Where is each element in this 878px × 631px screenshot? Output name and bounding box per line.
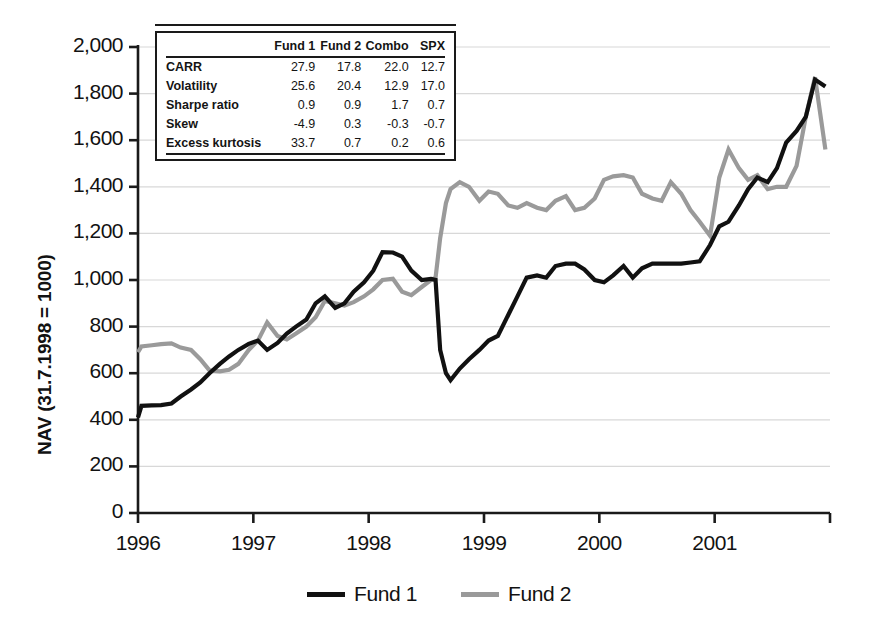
legend-swatch-icon	[307, 592, 345, 597]
table-cell-value: 0.7	[315, 134, 361, 154]
table-row-label: CARR	[166, 57, 269, 77]
table-cell-value: -0.3	[361, 115, 408, 134]
y-tick-label: 2,000	[49, 33, 123, 57]
table-cell-value: 25.6	[269, 77, 315, 96]
y-tick-label: 0	[49, 499, 123, 523]
y-tick-label: 1,800	[49, 80, 123, 104]
legend-label: Fund 2	[508, 582, 571, 606]
table-cell-value: 17.8	[315, 57, 361, 77]
table-row: Sharpe ratio0.90.91.70.7	[166, 96, 445, 115]
table-header-fund-1: Fund 1	[269, 36, 315, 57]
table-cell-value: 12.7	[409, 57, 445, 77]
legend-swatch-icon	[461, 592, 499, 597]
table-cell-value: -0.7	[409, 115, 445, 134]
table-row: CARR27.917.822.012.7	[166, 57, 445, 77]
table-cell-value: 17.0	[409, 77, 445, 96]
chart-legend: Fund 1Fund 2	[0, 582, 878, 606]
table-row: Skew-4.90.3-0.3-0.7	[166, 115, 445, 134]
y-tick-label: 1,600	[49, 126, 123, 150]
statistics-table: Fund 1 Fund 2 Combo SPX CARR27.917.822.0…	[155, 31, 456, 161]
table-row-label: Excess kurtosis	[166, 134, 269, 154]
table-cell-value: 27.9	[269, 57, 315, 77]
y-tick-label: 800	[49, 313, 123, 337]
table-cell-value: 33.7	[269, 134, 315, 154]
table-cell-value: 0.7	[409, 96, 445, 115]
table-cell-value: 0.9	[269, 96, 315, 115]
legend-label: Fund 1	[354, 582, 417, 606]
table-header-spx: SPX	[409, 36, 445, 57]
y-tick-label: 200	[49, 452, 123, 476]
x-tick-label: 1997	[208, 531, 298, 555]
table-cell-value: 0.2	[361, 134, 408, 154]
x-tick-label: 2001	[670, 531, 760, 555]
table-cell-value: 20.4	[315, 77, 361, 96]
table-header-combo: Combo	[361, 36, 408, 57]
table-corner-cell	[166, 36, 269, 57]
table-row: Volatility25.620.412.917.0	[166, 77, 445, 96]
table-cell-value: 0.3	[315, 115, 361, 134]
table-cell-value: 12.9	[361, 77, 408, 96]
legend-item-fund-2[interactable]: Fund 2	[461, 582, 571, 606]
table-row-label: Skew	[166, 115, 269, 134]
table-row-label: Volatility	[166, 77, 269, 96]
x-tick-label: 1999	[439, 531, 529, 555]
table-cell-value: 0.6	[409, 134, 445, 154]
y-tick-label: 400	[49, 406, 123, 430]
x-tick-label: 1996	[93, 531, 183, 555]
table-cell-value: -4.9	[269, 115, 315, 134]
y-tick-label: 1,000	[49, 266, 123, 290]
table-cell-value: 1.7	[361, 96, 408, 115]
x-tick-label: 1998	[324, 531, 414, 555]
legend-item-fund-1[interactable]: Fund 1	[307, 582, 417, 606]
table-cell-value: 22.0	[361, 57, 408, 77]
chart-figure: NAV (31.7.1998 = 1000) 02004006008001,00…	[0, 0, 878, 631]
table-row-label: Sharpe ratio	[166, 96, 269, 115]
table-cell-value: 0.9	[315, 96, 361, 115]
y-tick-label: 1,400	[49, 173, 123, 197]
y-tick-label: 600	[49, 359, 123, 383]
y-tick-label: 1,200	[49, 219, 123, 243]
table-header-fund-2: Fund 2	[315, 36, 361, 57]
table-row: Excess kurtosis33.70.70.20.6	[166, 134, 445, 154]
table-header-row: Fund 1 Fund 2 Combo SPX	[166, 36, 445, 57]
table-top-rule	[155, 24, 456, 26]
x-tick-label: 2000	[554, 531, 644, 555]
